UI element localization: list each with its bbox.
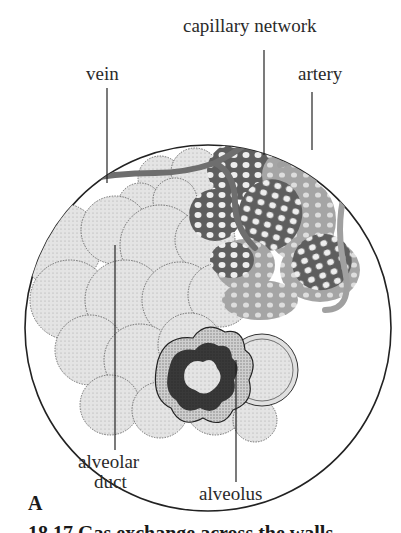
label-alveolar-duct-line1: alveolar (78, 452, 139, 472)
panel-letter: A (28, 492, 42, 515)
label-vein: vein (86, 64, 119, 84)
label-capillary-network: capillary network (183, 16, 316, 36)
figure-caption: 18.17 Gas exchange across the walls (28, 520, 333, 533)
label-alveolar-duct-line2: duct (94, 472, 127, 492)
label-alveolus: alveolus (199, 484, 262, 504)
label-artery: artery (298, 64, 342, 84)
